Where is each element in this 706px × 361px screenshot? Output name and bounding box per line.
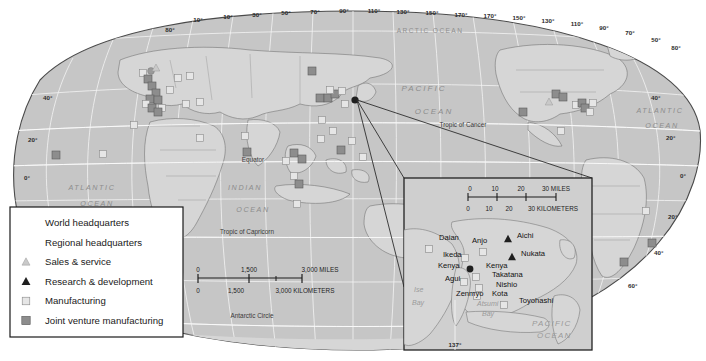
marker-manufacturing: [196, 98, 203, 105]
marker-manufacturing: [174, 74, 181, 81]
inset-city-label: Anjo: [472, 236, 487, 245]
japan-inset-map: 0 10 20 30 MILES 0 10 20 30 KILOMETERS D…: [404, 178, 592, 350]
legend-item[interactable]: World headquarters: [45, 217, 129, 228]
scale-km-1: 1,500: [228, 287, 244, 294]
lat-label-80-right: 80°: [671, 44, 681, 51]
lon-label: 110°: [368, 7, 381, 14]
marker-manufacturing: [341, 100, 348, 107]
lat-label: 20°: [28, 136, 38, 143]
marker-manufacturing: [99, 150, 106, 157]
marker-manufacturing: [642, 207, 649, 214]
marker-manufacturing: [348, 137, 355, 144]
inset-city-label: Nishio: [496, 280, 517, 289]
lat-label: 0°: [24, 174, 30, 181]
lon-label: 50°: [281, 9, 291, 16]
marker-joint-venture-manufacturing: [519, 108, 527, 116]
inset-scale-miles-0: 0: [468, 185, 472, 192]
ocean-label-atlantic-right-2: OCEAN: [645, 121, 679, 130]
lon-label: 70°: [310, 8, 320, 15]
ocean-label-atlantic-left: ATLANTIC: [67, 183, 115, 192]
marker-manufacturing: [329, 127, 336, 134]
lat-label: 40°: [43, 94, 53, 101]
legend-item-label: Research & development: [45, 276, 153, 287]
marker-joint-venture-manufacturing: [308, 67, 316, 75]
label-equator: Equator: [242, 156, 265, 164]
marker-manufacturing: [196, 134, 203, 141]
inset-city-label: Kota: [492, 289, 508, 298]
lat-label: 0°: [680, 172, 686, 179]
legend-item-label: Regional headquarters: [45, 237, 142, 248]
legend-item-label: Manufacturing: [45, 295, 106, 306]
marker-manufacturing: [589, 99, 596, 106]
lon-label: 110°: [571, 20, 584, 27]
marker-joint-venture-manufacturing: [154, 108, 162, 116]
marker-manufacturing: [462, 255, 469, 262]
label-tropic-cancer: Tropic of Cancer: [440, 121, 488, 129]
marker-manufacturing: [359, 153, 366, 160]
inset-city-label: Toyohashi: [519, 296, 554, 305]
inset-city-label: Nukata: [521, 249, 546, 258]
legend-symbol-square-dark: [22, 316, 30, 324]
bay-label-atsumi: Atsumi: [476, 300, 499, 307]
marker-joint-venture-manufacturing: [295, 180, 303, 188]
marker-manufacturing: [426, 246, 433, 253]
inset-city-label: Takatana: [492, 270, 524, 279]
marker-manufacturing: [338, 87, 345, 94]
scale-miles-1: 1,500: [241, 266, 257, 273]
marker-manufacturing: [293, 200, 300, 207]
marker-joint-venture-manufacturing: [154, 96, 162, 104]
scale-km-0: 0: [196, 287, 200, 294]
ocean-label-indian: INDIAN: [228, 183, 262, 192]
lon-label: 150°: [426, 9, 439, 16]
legend-symbol-square-light: [22, 297, 30, 305]
inset-scale-km-1: 10: [485, 205, 493, 212]
inset-scale-miles-3: 30 MILES: [542, 185, 570, 192]
marker-manufacturing: [130, 121, 137, 128]
lon-label: 130°: [542, 17, 555, 24]
ocean-label-arctic: ARCTIC OCEAN: [397, 27, 464, 34]
bay-label-ise: Ise: [414, 286, 423, 293]
inset-scale-km-3: 30 KILOMETERS: [528, 205, 578, 212]
ocean-label-pacific: PACIFIC: [402, 84, 447, 93]
marker-manufacturing: [480, 249, 487, 256]
marker-joint-venture-manufacturing: [648, 239, 656, 247]
map-screenshot: 10° 10° 30° 50° 70° 90° 110° 130° 150° 1…: [0, 0, 706, 361]
inset-city-label: Kenya: [438, 261, 460, 270]
legend-item-label: Sales & service: [45, 256, 111, 267]
lat-label: 20°: [666, 134, 676, 141]
inset-scale-km-2: 20: [505, 205, 513, 212]
scale-km-2: 3,000 KILOMETERS: [276, 287, 335, 294]
inset-city-label: Kenya: [486, 261, 508, 270]
legend: World headquartersRegional headquartersS…: [10, 207, 183, 337]
marker-world-headquarters: [467, 266, 474, 273]
bay-label-atsumi-2: Bay: [482, 310, 495, 318]
marker-joint-venture-manufacturing: [559, 93, 567, 101]
marker-joint-venture-manufacturing: [337, 146, 345, 154]
lon-label: 90°: [339, 7, 349, 14]
lat-label-80-left: 80°: [165, 26, 175, 33]
lat-label: 20°: [668, 213, 678, 220]
label-antarctic-circle: Antarctic Circle: [231, 312, 274, 319]
marker-joint-venture-manufacturing: [52, 151, 60, 159]
legend-item[interactable]: Regional headquarters: [45, 237, 142, 248]
marker-joint-venture-manufacturing: [290, 149, 298, 157]
inset-city-label: Agui: [445, 274, 461, 283]
lon-label: 30°: [252, 11, 262, 18]
lon-label: 170°: [455, 11, 468, 18]
lat-label: 60°: [628, 282, 638, 289]
inset-city-label: Zenmyo: [456, 289, 483, 298]
marker-joint-venture-manufacturing: [298, 155, 306, 163]
inset-city-label: Daian: [439, 233, 459, 242]
marker-manufacturing: [282, 157, 289, 164]
inset-scale-km-0: 0: [466, 205, 470, 212]
legend-item-label: World headquarters: [45, 217, 129, 228]
inset-longitude-label: 137°: [449, 341, 462, 348]
marker-manufacturing: [473, 274, 480, 281]
inset-ocean-pacific-2: OCEAN: [537, 331, 571, 340]
lon-label: 50°: [651, 36, 661, 43]
lon-label: 150°: [513, 14, 526, 21]
ocean-label-indian-2: OCEAN: [236, 205, 270, 214]
label-tropic-capricorn: Tropic of Capricorn: [220, 228, 275, 236]
lon-label: 90°: [599, 24, 609, 31]
inset-city-label: Ikeda: [443, 250, 462, 259]
